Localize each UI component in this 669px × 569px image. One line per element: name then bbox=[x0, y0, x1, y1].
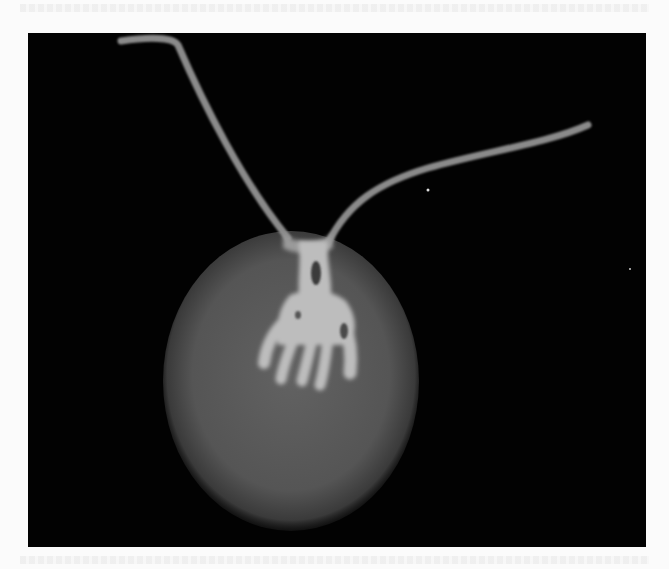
cut-off-text-top bbox=[20, 4, 649, 12]
vacuole-left bbox=[295, 311, 301, 319]
vacuole-stem bbox=[311, 261, 321, 285]
micrograph-image bbox=[28, 33, 646, 547]
page bbox=[0, 0, 669, 569]
flagellum-right bbox=[328, 125, 588, 243]
cut-off-text-bottom bbox=[20, 556, 649, 564]
cell-body bbox=[163, 231, 419, 531]
micrograph-figure bbox=[28, 33, 646, 547]
speck bbox=[427, 189, 430, 192]
speck bbox=[629, 268, 631, 270]
vacuole-right bbox=[340, 323, 348, 339]
flagellum-left bbox=[121, 38, 288, 238]
